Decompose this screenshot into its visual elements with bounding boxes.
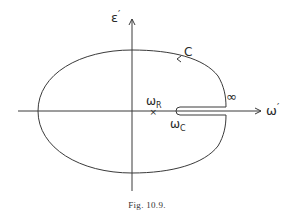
vertical-axis xyxy=(129,19,135,191)
vertical-axis-label: ε′ xyxy=(111,9,121,25)
contour-direction-arrow-icon xyxy=(177,56,181,62)
contour-diagram: C ∞ ε′ ω′ × ωR ωC Fig. 10.9. xyxy=(0,0,293,216)
omega-c-label: ωC xyxy=(170,117,186,133)
contour-label: C xyxy=(184,45,192,59)
omega-r-label: ωR xyxy=(146,94,162,110)
horizontal-axis-label: ω′ xyxy=(266,102,280,118)
horizontal-axis xyxy=(18,108,261,114)
infinity-label: ∞ xyxy=(226,89,237,104)
figure-caption: Fig. 10.9. xyxy=(128,200,166,210)
